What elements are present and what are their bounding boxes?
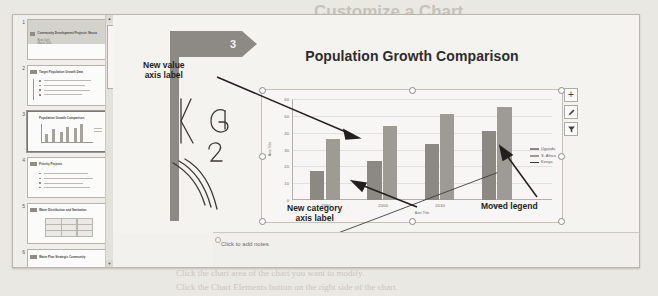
selection-handle-ml[interactable] — [259, 153, 266, 160]
slide-thumbnail-2[interactable]: 2 Target Population Growth Data — [13, 63, 113, 108]
selection-handle-tl[interactable] — [259, 87, 266, 94]
callout-line-1: New value — [143, 60, 185, 70]
slide-thumbnail-title-3: Population Growth Comparison — [39, 116, 84, 120]
slide-thumbnail-6[interactable]: 6 Water Plan Strategic Community — [13, 247, 113, 268]
callout-value-axis-label: New value axis label — [143, 60, 185, 80]
funnel-icon — [567, 125, 576, 134]
chart-plot-area[interactable]: 60 50 40 30 20 10 0 Axis Title 1990 — [292, 99, 552, 200]
slide-thumbnail-image-6[interactable]: Water Plan Strategic Community — [27, 249, 108, 268]
thumbnail-panel-scrollbar[interactable]: ▲ ▼ — [105, 15, 113, 267]
chart-title[interactable]: Population Growth Comparison — [262, 48, 562, 64]
selection-handle-bl[interactable] — [259, 218, 266, 225]
slide-thumbnail-title-5: Water Distribution and Sanitation — [39, 208, 86, 212]
notes-pane[interactable]: Click to add notes — [213, 232, 639, 267]
callout-line-1: Moved legend — [481, 201, 538, 211]
slide-thumbnail-title-1: Community Development Projects: Nexus — [37, 31, 97, 35]
slide-thumbnail-1[interactable]: 1 Community Development Projects: Nexus … — [13, 17, 113, 62]
slide-number-1: 1 — [13, 17, 27, 62]
chart-legend[interactable]: Uganda S. Africa Kenya — [530, 146, 556, 166]
y-tick-label: 30 — [284, 147, 289, 152]
slide-number-2: 2 — [13, 63, 27, 108]
slide-thumbnail-image-1[interactable]: Community Development Projects: Nexus Ry… — [27, 19, 108, 60]
slide-thumbnail-3[interactable]: 3 Population Growth Comparison — [13, 109, 113, 154]
legend-entry-kenya[interactable]: Kenya — [530, 159, 556, 166]
slide-number-6: 6 — [13, 247, 27, 268]
slide-thumbnail-5[interactable]: 5 Water Distribution and Sanitation — [13, 201, 113, 246]
legend-label: Kenya — [541, 159, 552, 166]
value-axis-title[interactable]: Axis Title — [268, 142, 272, 156]
powerpoint-screenshot: 1 Community Development Projects: Nexus … — [12, 14, 640, 268]
legend-line-icon — [530, 162, 539, 163]
current-slide[interactable]: 3 Population Growth Comparison — [113, 15, 639, 233]
slides-thumbnail-panel[interactable]: 1 Community Development Projects: Nexus … — [13, 15, 114, 267]
legend-swatch-icon — [530, 155, 539, 157]
legend-swatch-icon — [530, 148, 539, 150]
selection-handle-br[interactable] — [558, 218, 565, 225]
notes-placeholder[interactable]: Click to add notes — [221, 241, 269, 247]
selection-handle-tc[interactable] — [409, 87, 416, 94]
chart-styles-button[interactable] — [564, 105, 578, 119]
slide-number-4: 4 — [13, 155, 27, 200]
y-tick-label: 50 — [284, 113, 289, 118]
slide-thumbnail-image-3[interactable]: Population Growth Comparison — [27, 111, 108, 152]
y-tick-label: 60 — [284, 97, 289, 102]
slide-thumbnail-image-5[interactable]: Water Distribution and Sanitation — [27, 203, 108, 244]
slide-thumbnail-title-6: Water Plan Strategic Community — [39, 255, 85, 259]
selection-handle-bc[interactable] — [409, 218, 416, 225]
scroll-up-arrow-icon[interactable]: ▲ — [106, 15, 113, 22]
slide-thumbnail-4[interactable]: 4 Priority Projects — [13, 155, 113, 200]
banner-number: 3 — [230, 38, 236, 50]
scroll-down-arrow-icon[interactable]: ▼ — [106, 260, 113, 267]
pencil-icon — [567, 108, 576, 117]
callout-line-2: axis label — [143, 70, 185, 80]
slide-thumbnail-image-4[interactable]: Priority Projects — [27, 157, 108, 198]
slide-thumbnail-title-2: Target Population Growth Data — [39, 70, 83, 74]
slide-thumbnail-image-2[interactable]: Target Population Growth Data — [27, 65, 108, 106]
y-tick-label: 10 — [284, 181, 289, 186]
y-tick-label: 0 — [287, 198, 289, 203]
selection-handle-mr[interactable] — [558, 153, 565, 160]
callout-line-1: New category — [287, 203, 342, 213]
callout-line-2: axis label — [287, 213, 342, 223]
chart-elements-button[interactable]: + — [564, 88, 578, 102]
slide-number-banner: 3 — [170, 31, 242, 57]
chart-filters-button[interactable] — [564, 122, 578, 136]
slide-number-5: 5 — [13, 201, 27, 246]
chart-side-buttons[interactable]: + — [564, 88, 578, 136]
callout-moved-legend: Moved legend — [481, 201, 538, 211]
y-tick-label: 40 — [284, 130, 289, 135]
y-tick-label: 20 — [284, 164, 289, 169]
slide-number-3: 3 — [13, 109, 27, 154]
slide-editing-stage: 3 Population Growth Comparison — [113, 15, 639, 267]
category-axis-title[interactable]: Axis Title — [415, 211, 429, 215]
callout-category-axis-label: New category axis label — [287, 203, 342, 223]
slide-thumbnail-title-4: Priority Projects — [39, 162, 62, 166]
